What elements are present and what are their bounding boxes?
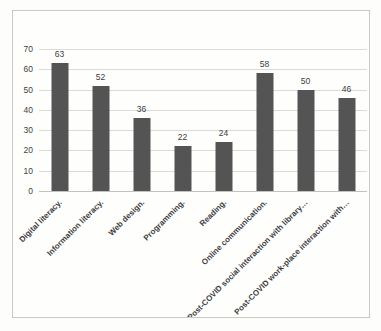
bar-chart-screenshot: 6352362224585046 010203040506070 Digital… — [0, 0, 381, 331]
x-axis-line — [39, 191, 367, 192]
bar-value-label: 50 — [301, 76, 310, 86]
bar-post-covid-social-interaction-with-library — [297, 90, 314, 191]
bar-digital-literacy — [51, 63, 68, 191]
bar-slot: 24 — [203, 49, 244, 191]
bar-information-literacy — [92, 86, 109, 191]
category-label: Web design. — [106, 198, 146, 238]
bar-post-covid-work-place-interaction-with — [338, 98, 355, 191]
chart-frame: 6352362224585046 010203040506070 Digital… — [12, 10, 370, 318]
bar-slot: 63 — [39, 49, 80, 191]
bar-value-label: 46 — [342, 84, 351, 94]
bar-slot: 46 — [326, 49, 367, 191]
bar-value-label: 63 — [55, 49, 64, 59]
y-tick-label-60: 60 — [12, 64, 33, 74]
category-label: Programming. — [142, 198, 187, 243]
plot-area: 6352362224585046 — [39, 49, 367, 191]
bar-slot: 52 — [80, 49, 121, 191]
bar-value-label: 24 — [219, 128, 228, 138]
bar-online-communication — [256, 73, 273, 191]
category-label: Reading. — [198, 198, 228, 228]
bar-web-design — [133, 118, 150, 191]
bar-programming — [174, 146, 191, 191]
y-tick-label-50: 50 — [12, 85, 33, 95]
y-tick-label-20: 20 — [12, 145, 33, 155]
bar-slot: 58 — [244, 49, 285, 191]
y-tick-label-0: 0 — [12, 186, 33, 196]
y-tick-label-40: 40 — [12, 105, 33, 115]
bar-slot: 50 — [285, 49, 326, 191]
bar-reading — [215, 142, 232, 191]
y-tick-label-30: 30 — [12, 125, 33, 135]
bar-value-label: 36 — [137, 104, 146, 114]
y-tick-label-70: 70 — [12, 44, 33, 54]
bar-value-label: 22 — [178, 132, 187, 142]
bar-slot: 22 — [162, 49, 203, 191]
bar-value-label: 52 — [96, 72, 105, 82]
bar-value-label: 58 — [260, 59, 269, 69]
category-label: Digital literacy. — [18, 198, 64, 244]
bar-slot: 36 — [121, 49, 162, 191]
y-tick-label-10: 10 — [12, 166, 33, 176]
